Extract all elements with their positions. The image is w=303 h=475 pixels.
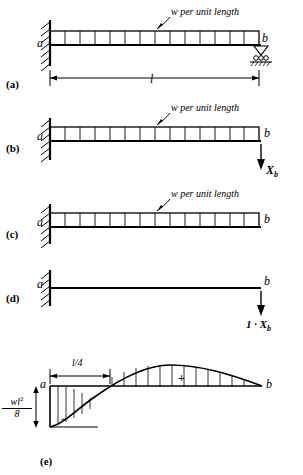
- panel-a-span-label: l: [150, 72, 153, 87]
- panel-b-force-label: Xb: [266, 163, 278, 179]
- panel-e-right-label: b: [266, 377, 272, 392]
- span-dimension-a: [50, 70, 259, 86]
- distributed-load-a: [50, 31, 259, 45]
- panel-e-left-label: a: [40, 377, 46, 392]
- panel-c-graphic: [0, 186, 303, 256]
- force-arrow-d: [257, 291, 265, 316]
- panel-c-left-node-label: a: [37, 215, 43, 230]
- force-arrow-b: [257, 144, 265, 170]
- quarter-span-dimension: [50, 369, 110, 384]
- panel-a-left-node-label: a: [37, 36, 43, 51]
- panel-a-label: (a): [6, 78, 19, 90]
- panel-a-load-note: w per unit length: [171, 6, 239, 17]
- panel-d-force-label: 1 · Xb: [246, 318, 271, 333]
- panel-e-label: (e): [40, 455, 52, 467]
- distributed-load-b: [50, 127, 259, 141]
- negative-moment-region: [50, 386, 98, 427]
- ordinate-value-label: wl2 8: [2, 396, 32, 419]
- panel-b-left-node-label: a: [37, 129, 43, 144]
- panel-b-graphic: [0, 100, 303, 180]
- negative-sign-label: −: [61, 412, 68, 427]
- panel-a-right-node-label: b: [262, 31, 268, 46]
- panel-c-load-note: w per unit length: [171, 188, 239, 199]
- panel-b-label: (b): [6, 142, 19, 154]
- panel-e-graphic: [0, 352, 303, 467]
- panel-d-left-node-label: a: [37, 277, 43, 292]
- panel-c-label: (c): [6, 228, 18, 240]
- panel-c-right-node-label: b: [264, 212, 270, 227]
- panel-b-load-note: w per unit length: [171, 102, 239, 113]
- panel-d-label: (d): [6, 292, 19, 304]
- panel-e-dim-label: l/4: [72, 357, 83, 368]
- roller-support-b: [250, 46, 272, 66]
- distributed-load-c: [50, 213, 259, 227]
- beam-diagram-figure: a b l w per unit length (a): [0, 0, 303, 475]
- positive-sign-label: +: [178, 371, 185, 386]
- panel-d-right-node-label: b: [264, 274, 270, 289]
- panel-b-right-node-label: b: [264, 126, 270, 141]
- ordinate-dimension: [33, 386, 38, 428]
